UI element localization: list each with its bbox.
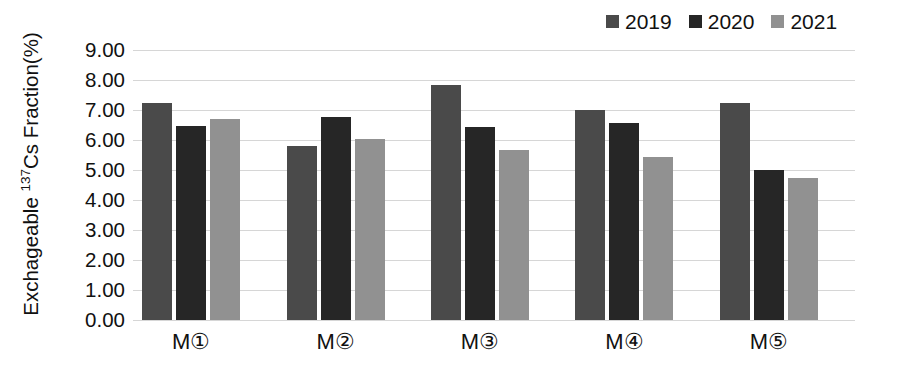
x-axis-tick-label: M① xyxy=(121,327,261,357)
y-axis-tick-label: 1.00 xyxy=(63,280,125,301)
y-axis-tick-label: 2.00 xyxy=(63,250,125,271)
gridline xyxy=(133,320,855,321)
legend-swatch-2020 xyxy=(689,15,702,28)
x-axis-tick-label: M③ xyxy=(410,327,550,357)
y-axis-title-prefix: Exchageable xyxy=(19,191,42,315)
bar-group xyxy=(142,50,240,320)
legend-label-2021: 2021 xyxy=(790,11,837,32)
legend-entry-2020: 2020 xyxy=(689,11,755,32)
y-axis-tick-label: 9.00 xyxy=(63,40,125,61)
bar-M②-2021 xyxy=(355,139,385,321)
bar-M③-2020 xyxy=(465,127,495,320)
bar-M⑤-2021 xyxy=(788,178,818,320)
y-axis-tick-label: 8.00 xyxy=(63,70,125,91)
y-axis-tick-label: 7.00 xyxy=(63,100,125,121)
bar-M①-2019 xyxy=(142,103,172,320)
bar-group xyxy=(720,50,818,320)
legend-label-2019: 2019 xyxy=(625,11,672,32)
bar-group xyxy=(431,50,529,320)
legend-label-2020: 2020 xyxy=(708,11,755,32)
bar-M④-2021 xyxy=(643,157,673,320)
bar-M③-2019 xyxy=(431,85,461,321)
bar-group xyxy=(287,50,385,320)
bar-M⑤-2019 xyxy=(720,103,750,320)
y-axis-tick-label: 5.00 xyxy=(63,160,125,181)
legend-swatch-2019 xyxy=(606,15,619,28)
y-axis-title-suffix: Cs Fraction(%) xyxy=(19,32,42,169)
chart-legend: 2019 2020 2021 xyxy=(606,11,837,32)
y-axis-tick-label: 0.00 xyxy=(63,310,125,331)
bar-group xyxy=(575,50,673,320)
x-axis-tick-labels: M①M②M③M④M⑤ xyxy=(133,327,855,367)
y-axis-tick-label: 6.00 xyxy=(63,130,125,151)
bars-layer xyxy=(133,50,855,320)
legend-swatch-2021 xyxy=(771,15,784,28)
y-axis-tick-label: 4.00 xyxy=(63,190,125,211)
y-axis-title: Exchageable 137Cs Fraction(%) xyxy=(14,0,48,381)
y-axis-tick-label: 3.00 xyxy=(63,220,125,241)
bar-M①-2020 xyxy=(176,126,206,320)
legend-entry-2021: 2021 xyxy=(771,11,837,32)
y-axis-title-superscript: 137 xyxy=(18,168,33,191)
bar-M②-2019 xyxy=(287,146,317,320)
bar-M④-2019 xyxy=(575,110,605,320)
y-axis-tick-labels: 9.008.007.006.005.004.003.002.001.000.00 xyxy=(55,50,125,320)
x-axis-tick-label: M② xyxy=(266,327,406,357)
bar-M②-2020 xyxy=(321,117,351,320)
bar-M①-2021 xyxy=(210,119,240,320)
x-axis-tick-label: M④ xyxy=(554,327,694,357)
bar-M④-2020 xyxy=(609,123,639,320)
bar-chart-figure: 2019 2020 2021 Exchageable 137Cs Fractio… xyxy=(0,0,899,381)
x-axis-tick-label: M⑤ xyxy=(699,327,839,357)
legend-entry-2019: 2019 xyxy=(606,11,672,32)
bar-M⑤-2020 xyxy=(754,170,784,320)
plot-area xyxy=(133,50,855,320)
bar-M③-2021 xyxy=(499,150,529,320)
